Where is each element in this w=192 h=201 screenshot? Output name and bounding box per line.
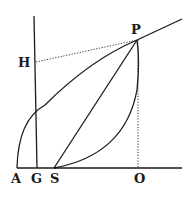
- dotted-line-h-p: [36, 40, 137, 62]
- label-a: A: [10, 171, 22, 186]
- label-h: H: [18, 55, 30, 70]
- geometry-diagram: P H A G S O: [0, 0, 192, 201]
- label-g: G: [31, 171, 42, 186]
- tangent-line: [137, 19, 182, 40]
- chord-s-p: [54, 40, 137, 168]
- label-p: P: [131, 22, 141, 37]
- label-o: O: [134, 171, 145, 186]
- label-s: S: [50, 171, 59, 186]
- vertical-line-g: [34, 16, 37, 168]
